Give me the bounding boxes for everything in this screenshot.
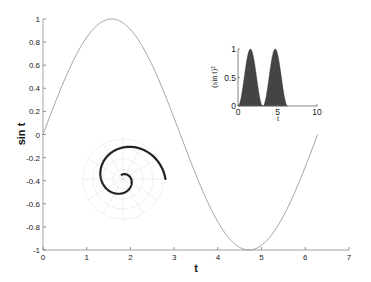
x-tick-label: 7 <box>347 253 352 262</box>
x-tick-label: 0 <box>41 253 46 262</box>
y-tick-label: -1 <box>33 246 41 255</box>
chart-canvas: 01234567-1-0.8-0.6-0.4-0.200.20.40.60.81… <box>0 0 371 282</box>
x-tick-label: 5 <box>259 253 264 262</box>
y-tick-label: -0.6 <box>26 200 40 209</box>
y-tick-label: 1 <box>36 15 41 24</box>
y-tick-label: 0.6 <box>29 61 41 70</box>
x-tick-label: 3 <box>172 253 177 262</box>
main-axes: 01234567-1-0.8-0.6-0.4-0.200.20.40.60.81 <box>26 15 352 262</box>
x-tick-label: 4 <box>216 253 221 262</box>
inset-area-fill <box>238 49 288 106</box>
inset-y-tick-label: 0.5 <box>224 73 236 83</box>
area-inset: 051000.51 <box>224 44 322 117</box>
y-tick-label: -0.4 <box>26 177 40 186</box>
figure: 01234567-1-0.8-0.6-0.4-0.200.20.40.60.81… <box>0 0 371 282</box>
y-tick-label: 0.4 <box>29 84 41 93</box>
inset-x-tick-label: 10 <box>312 107 322 117</box>
inset-y-tick-label: 1 <box>231 44 236 54</box>
y-tick-label: 0.2 <box>29 107 41 116</box>
inset-y-axis-label: (sin t)² <box>210 66 219 88</box>
polar-spiral-curve <box>100 147 165 194</box>
polar-grid-spoke <box>88 159 123 179</box>
x-tick-label: 1 <box>84 253 89 262</box>
x-tick-label: 2 <box>128 253 133 262</box>
polar-grid-spoke <box>103 179 123 214</box>
y-tick-label: 0 <box>36 131 41 140</box>
polar-grid-spoke <box>103 144 123 179</box>
y-axis-label: sin t <box>15 122 27 145</box>
y-tick-label: 0.8 <box>29 38 41 47</box>
inset-x-tick-label: 0 <box>236 107 241 117</box>
y-tick-label: -0.8 <box>26 223 40 232</box>
x-tick-label: 6 <box>303 253 308 262</box>
x-axis-label: t <box>194 262 198 274</box>
polar-inset <box>83 139 166 219</box>
y-tick-label: -0.2 <box>26 154 40 163</box>
inset-y-tick-label: 0 <box>231 101 236 111</box>
polar-grid-spoke <box>123 179 143 214</box>
